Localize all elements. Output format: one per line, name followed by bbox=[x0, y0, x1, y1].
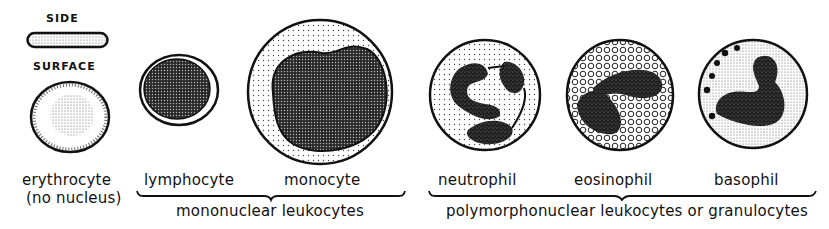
erythrocyte-side-view bbox=[26, 30, 110, 50]
neutrophil-cell bbox=[428, 38, 542, 152]
mononuclear-brace bbox=[136, 189, 406, 201]
eosinophil-cell bbox=[563, 38, 677, 152]
eosinophil-label: eosinophil bbox=[574, 171, 652, 189]
neutrophil-label: neutrophil bbox=[438, 171, 517, 189]
mononuclear-group-label: mononuclear leukocytes bbox=[176, 202, 364, 220]
surface-caption: SURFACE bbox=[33, 60, 96, 73]
erythrocyte-label: erythrocyte bbox=[22, 171, 111, 189]
polymorphonuclear-brace bbox=[428, 189, 818, 201]
erythrocyte-surface-view bbox=[28, 80, 112, 154]
polymorphonuclear-group-label: polymorphonuclear leukocytes or granuloc… bbox=[446, 202, 808, 220]
monocyte-label: monocyte bbox=[284, 171, 360, 189]
lymphocyte-cell bbox=[139, 54, 221, 126]
erythrocyte-note: (no nucleus) bbox=[26, 189, 122, 207]
monocyte-cell bbox=[247, 19, 393, 165]
basophil-cell bbox=[697, 38, 809, 150]
lymphocyte-label: lymphocyte bbox=[144, 171, 234, 189]
side-caption: SIDE bbox=[46, 12, 79, 25]
basophil-label: basophil bbox=[714, 171, 779, 189]
